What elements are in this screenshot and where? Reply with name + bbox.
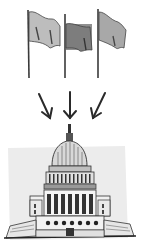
illustration-canvas xyxy=(0,0,148,251)
arrow-down-icon xyxy=(64,92,76,118)
arrow-down-right-icon xyxy=(39,94,52,118)
flags-group xyxy=(28,9,126,78)
flag-center-icon xyxy=(65,14,92,78)
arrows-group xyxy=(39,92,105,118)
flag-right-icon xyxy=(98,9,126,78)
capitol-building-icon xyxy=(4,124,136,240)
illustration xyxy=(0,0,148,251)
flag-left-icon xyxy=(28,10,60,78)
arrow-down-left-icon xyxy=(91,93,105,118)
